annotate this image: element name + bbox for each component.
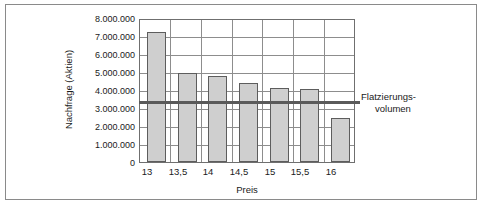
category-separator [170, 20, 171, 162]
bar [239, 83, 258, 162]
gridline [140, 55, 354, 56]
y-tick-label: 5.000.000 [95, 69, 135, 78]
x-tick-label: 16 [315, 167, 347, 177]
gridline [140, 37, 354, 38]
y-tick-label: 3.000.000 [95, 105, 135, 114]
gridline [140, 73, 354, 74]
y-tick-label: 7.000.000 [95, 33, 135, 42]
bar [331, 118, 350, 162]
annotation-line-1: Flatzierungs- [361, 91, 471, 103]
y-tick-label: 1.000.000 [95, 141, 135, 150]
category-separator [201, 20, 202, 162]
plot-area [139, 19, 355, 163]
x-tick-label: 13 [131, 167, 163, 177]
category-separator [324, 20, 325, 162]
bar [178, 73, 197, 162]
x-tick-label: 15 [254, 167, 286, 177]
bar [147, 32, 166, 162]
category-separator [293, 20, 294, 162]
x-axis-title: Preis [139, 184, 355, 195]
y-tick-label: 2.000.000 [95, 123, 135, 132]
x-tick-label: 13,5 [162, 167, 194, 177]
category-separator [232, 20, 233, 162]
category-separator [262, 20, 263, 162]
bar [270, 88, 289, 162]
y-axis-title: Nachfrage (Aktien) [63, 30, 74, 150]
y-tick-label: 4.000.000 [95, 87, 135, 96]
y-tick-label: 8.000.000 [95, 15, 135, 24]
chart-figure: 8.000.000 7.000.000 6.000.000 5.000.000 … [0, 0, 485, 209]
x-tick-label: 14 [192, 167, 224, 177]
annotation-line-2: volumen [361, 103, 471, 115]
bar [208, 76, 227, 162]
bar [300, 89, 319, 162]
x-tick-label: 14,5 [223, 167, 255, 177]
placement-volume-annotation: Flatzierungs- volumen [361, 91, 471, 115]
y-axis-title-holder: Nachfrage (Aktien) [9, 42, 129, 56]
placement-volume-threshold-line [139, 101, 360, 104]
y-axis-tick-labels: 8.000.000 7.000.000 6.000.000 5.000.000 … [75, 0, 135, 209]
x-tick-label: 15,5 [284, 167, 316, 177]
